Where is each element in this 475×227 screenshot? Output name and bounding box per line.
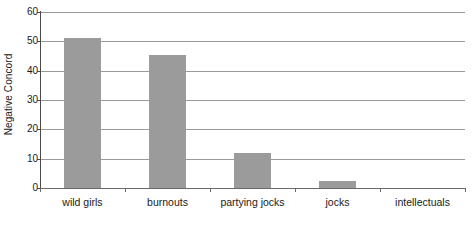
x-tick-mark-1 [125,188,126,192]
x-tick-mark-4 [380,188,381,192]
y-axis-title: Negative Concord [0,0,18,188]
bar-wild-girls [64,38,101,188]
bar-partying-jocks [234,153,271,188]
y-tick-label-50: 50 [18,36,38,46]
x-tick-label-wild-girls: wild girls [62,196,102,209]
bar-burnouts [149,55,186,188]
y-tick-label-60: 60 [18,7,38,17]
x-tick-label-intellectuals: intellectuals [395,196,450,209]
x-tick-mark-2 [210,188,211,192]
y-tick-label-0: 0 [18,183,38,193]
bars-group [40,12,465,188]
x-tick-mark-0 [40,188,41,192]
y-axis-title-text: Negative Concord [4,53,15,135]
x-tick-label-partying-jocks: partying jocks [220,196,284,209]
bar-jocks [319,181,356,188]
x-tick-mark-3 [295,188,296,192]
bar-chart-figure: Negative Concord 0102030405060 wild girl… [0,0,475,227]
y-tick-label-10: 10 [18,154,38,164]
x-tick-label-jocks: jocks [326,196,350,209]
y-tick-label-30: 30 [18,95,38,105]
y-tick-label-20: 20 [18,124,38,134]
x-tick-label-burnouts: burnouts [147,196,188,209]
x-axis: wild girlsburnoutspartying jocksjocksint… [40,188,465,227]
y-axis-tick-labels: 0102030405060 [18,0,38,227]
plot-area [40,12,465,188]
y-tick-label-40: 40 [18,66,38,76]
x-tick-mark-5 [465,188,466,192]
